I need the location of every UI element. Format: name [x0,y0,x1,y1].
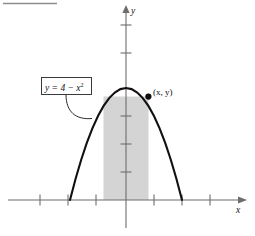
x-axis-label: x [236,206,240,216]
equation-leader-line [66,95,92,119]
equation-label: y = 4 − x2 [45,82,84,94]
plot-svg [0,0,255,236]
equation-exponent: 2 [81,82,84,88]
point-marker [145,94,151,100]
point-label: (x, y) [153,88,173,97]
y-axis-label: y [131,7,135,17]
equation-text: y = 4 − x [45,83,81,93]
x-axis-arrowhead [238,196,247,203]
figure-canvas: y x (x, y) y = 4 − x2 [0,0,255,236]
y-axis-arrowhead [122,5,129,13]
